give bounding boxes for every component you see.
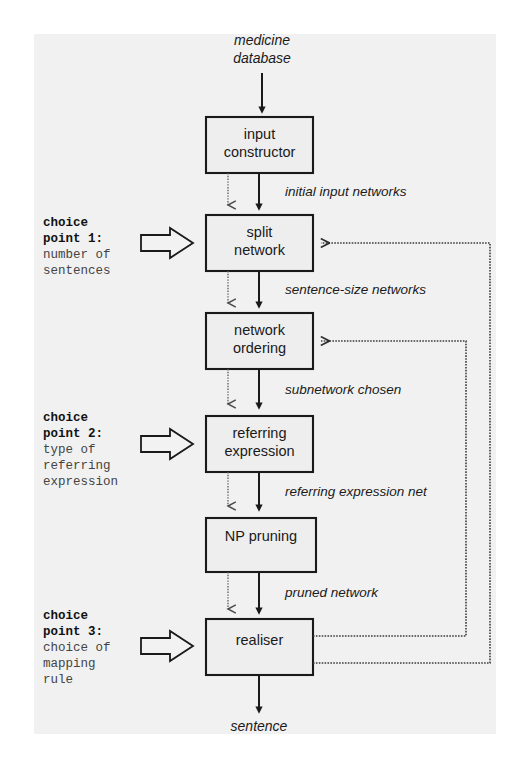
choice-point-3-title-line2: point 3: — [43, 625, 103, 639]
box-split-network-line1: split — [247, 224, 273, 240]
box-network-ordering-line1: network — [234, 322, 286, 338]
box-split-network-line2: network — [234, 242, 286, 258]
box-input-constructor-line1: input — [244, 126, 275, 142]
edge-label-sentence-size-networks: sentence-size networks — [285, 282, 426, 297]
box-np-pruning[interactable] — [206, 518, 316, 572]
choice-point-1[interactable]: choice point 1: number of sentences — [43, 216, 193, 278]
input-label-line1: medicine — [234, 32, 290, 48]
box-referring-expression-line2: expression — [224, 443, 294, 459]
choice-point-3-arrow-icon — [141, 631, 193, 661]
diagram-page: medicine database input constructor init… — [0, 0, 515, 766]
choice-point-1-desc-line2: sentences — [43, 264, 111, 278]
choice-point-1-title-line2: point 1: — [43, 232, 103, 246]
choice-point-1-desc-line1: number of — [43, 248, 111, 262]
choice-point-3-desc-line2: mapping — [43, 657, 96, 671]
choice-point-2[interactable]: choice point 2: type of referring expres… — [43, 411, 193, 489]
choice-point-2-desc-line2: referring — [43, 459, 111, 473]
choice-point-3-desc-line1: choice of — [43, 641, 111, 655]
pipeline-diagram: medicine database input constructor init… — [0, 0, 515, 766]
edge-label-subnetwork-chosen: subnetwork chosen — [285, 382, 401, 397]
edge-label-pruned-network: pruned network — [284, 585, 379, 600]
box-realiser-label: realiser — [236, 632, 284, 648]
box-network-ordering-line2: ordering — [233, 340, 286, 356]
choice-point-3[interactable]: choice point 3: choice of mapping rule — [43, 609, 193, 687]
output-label-sentence: sentence — [231, 718, 288, 734]
choice-point-2-arrow-icon — [141, 429, 193, 459]
edge-label-referring-expression-net: referring expression net — [285, 484, 428, 499]
box-input-constructor-line2: constructor — [224, 144, 296, 160]
choice-point-1-title-line1: choice — [43, 216, 88, 230]
choice-point-2-title-line1: choice — [43, 411, 88, 425]
choice-point-3-title-line1: choice — [43, 609, 88, 623]
choice-point-3-desc-line3: rule — [43, 673, 73, 687]
choice-point-2-title-line2: point 2: — [43, 427, 103, 441]
box-referring-expression-line1: referring — [233, 425, 287, 441]
choice-point-2-desc-line3: expression — [43, 475, 118, 489]
feedback-loop-realiser-to-split-network — [313, 243, 490, 663]
choice-point-2-desc-line1: type of — [43, 443, 96, 457]
box-np-pruning-label: NP pruning — [225, 528, 297, 544]
edge-label-initial-input-networks: initial input networks — [285, 184, 407, 199]
choice-point-1-arrow-icon — [141, 228, 193, 258]
input-label-line2: database — [233, 50, 291, 66]
